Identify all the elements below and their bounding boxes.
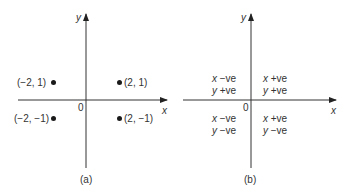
sign: −ve: [220, 125, 236, 136]
panel-b-x-axis-label: x: [331, 105, 336, 116]
var-y: y: [263, 125, 268, 136]
point-label-2-neg1: (2, −1): [124, 113, 153, 124]
panel-a-origin-label: 0: [78, 102, 84, 113]
var-x: x: [212, 73, 217, 84]
var-y: y: [212, 85, 217, 96]
point-marker-neg2-1: [51, 80, 56, 85]
quadrant-tl-x: x −ve: [212, 73, 236, 84]
quadrant-br-y: y −ve: [263, 125, 287, 136]
panel-a-x-axis-label: x: [162, 105, 167, 116]
quadrant-tr-y: y +ve: [263, 85, 287, 96]
panel-b-caption: (b): [244, 174, 256, 185]
sign: −ve: [271, 125, 287, 136]
point-label-2-1: (2, 1): [124, 77, 147, 88]
point-marker-2-neg1: [117, 116, 122, 121]
point-label-neg2-neg1: (−2, −1): [14, 113, 49, 124]
point-marker-2-1: [117, 80, 122, 85]
var-y: y: [212, 125, 217, 136]
point-marker-neg2-neg1: [51, 116, 56, 121]
panel-b-origin-label: 0: [243, 102, 249, 113]
axes-drawing: [0, 0, 346, 196]
quadrant-br-x: x +ve: [263, 113, 287, 124]
var-y: y: [263, 85, 268, 96]
quadrant-bl-x: x −ve: [212, 113, 236, 124]
var-x: x: [263, 113, 268, 124]
sign: +ve: [271, 113, 287, 124]
sign: +ve: [220, 85, 236, 96]
sign: +ve: [271, 85, 287, 96]
quadrant-tl-y: y +ve: [212, 85, 236, 96]
sign: −ve: [220, 73, 236, 84]
var-x: x: [263, 73, 268, 84]
quadrant-bl-y: y −ve: [212, 125, 236, 136]
panel-a-caption: (a): [80, 174, 92, 185]
panel-a-y-axis-label: y: [76, 12, 81, 23]
point-label-neg2-1: (−2, 1): [17, 77, 46, 88]
sign: −ve: [220, 113, 236, 124]
var-x: x: [212, 113, 217, 124]
panel-b-y-axis-label: y: [241, 12, 246, 23]
sign: +ve: [271, 73, 287, 84]
quadrant-tr-x: x +ve: [263, 73, 287, 84]
